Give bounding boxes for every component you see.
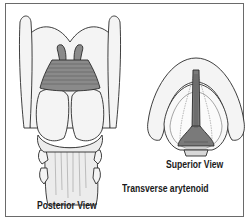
superior-view-label: Superior View [166,158,223,170]
superior-horn-right [108,16,121,128]
cricoid-lamina-left [36,89,69,141]
superior-horn-left [19,16,32,128]
trachea [44,148,98,205]
transverse-arytenoid-muscle-posterior [40,60,100,91]
muscle-label: Transverse arytenoid [122,182,209,194]
posterior-view-label: Posterior View [37,199,97,211]
vocal-fold-column [192,70,200,130]
posterior-view-drawing [19,16,120,205]
cricoid-lamina-right [71,89,104,141]
superior-view-drawing [148,58,245,156]
cricoid-base-superior [184,150,208,156]
